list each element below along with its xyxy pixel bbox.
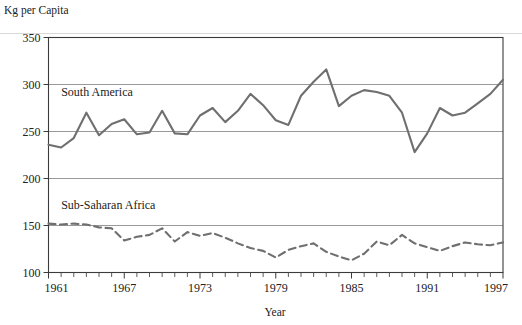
x-axis-tick-labels-group: 1961196719731979198519911997	[45, 281, 509, 295]
series-label-south-america: South America	[61, 85, 133, 99]
series-line-sub-saharan-africa	[49, 224, 504, 261]
y-axis-tick-labels-group: 100150200250300350	[23, 31, 41, 280]
x-tick-label-1967: 1967	[112, 281, 136, 295]
x-tick-label-1985: 1985	[340, 281, 364, 295]
y-tick-label-150: 150	[23, 219, 41, 233]
x-tick-label-1997: 1997	[484, 281, 508, 295]
y-tick-label-100: 100	[23, 266, 41, 280]
x-tick-label-1961: 1961	[45, 281, 69, 295]
y-tick-label-300: 300	[23, 78, 41, 92]
x-tick-label-1979: 1979	[264, 281, 288, 295]
y-tick-label-250: 250	[23, 125, 41, 139]
kg-per-capita-line-chart: 100150200250300350 196119671973197919851…	[0, 0, 522, 325]
y-axis-ticks-group	[44, 38, 49, 273]
x-axis-ticks-group	[49, 273, 504, 279]
series-labels-group: South AmericaSub-Saharan Africa	[61, 85, 156, 212]
chart-canvas: 100150200250300350 196119671973197919851…	[0, 0, 522, 325]
x-tick-label-1973: 1973	[188, 281, 212, 295]
y-axis-title: Kg per Capita	[4, 4, 69, 17]
x-axis-title: Year	[264, 306, 285, 318]
series-label-sub-saharan-africa: Sub-Saharan Africa	[61, 198, 156, 212]
series-line-south-america	[49, 69, 504, 152]
y-tick-label-350: 350	[23, 31, 41, 45]
x-tick-label-1991: 1991	[415, 281, 439, 295]
y-tick-label-200: 200	[23, 172, 41, 186]
plot-area-border	[49, 38, 504, 273]
